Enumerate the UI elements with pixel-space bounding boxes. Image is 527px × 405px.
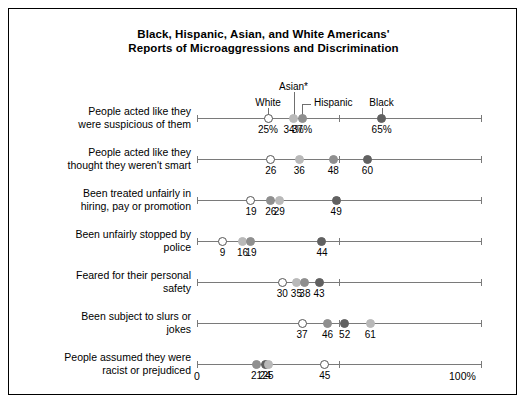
axis-tick-50 [339,361,340,368]
row-label-line-2: were suspicious of them [15,118,191,131]
row-label: People acted like theythought they weren… [15,146,191,172]
axis-end-label: 100% [449,370,476,382]
row-label-line-1: Feared for their personal [15,269,191,282]
legend-connector [302,104,311,105]
data-point-hispanic [266,196,275,205]
data-point-asian [289,114,298,123]
data-point-black [317,237,326,246]
row-label-line-2: jokes [15,323,191,336]
axis-tick-100 [481,361,482,368]
legend-connector [294,92,295,115]
axis-tick-0 [197,115,198,122]
axis-tick-0 [197,279,198,286]
chart-panel: Black, Hispanic, Asian, and White Americ… [8,8,517,395]
data-point-value-label: 49 [320,206,352,217]
data-point-asian [295,155,304,164]
axis-tick-50 [339,115,340,122]
row-label: Been subject to slurs orjokes [15,310,191,336]
data-point-hispanic [300,278,309,287]
data-point-hispanic [323,319,332,328]
row-label-line-1: People acted like they [15,105,191,118]
row-label-line-2: thought they weren't smart [15,159,191,172]
data-point-value-label: 37% [286,124,318,135]
data-point-black [363,155,372,164]
data-point-hispanic [329,155,338,164]
chart-title-line-2: Reports of Microaggressions and Discrimi… [9,41,517,55]
data-point-white [246,196,255,205]
data-point-value-label: 44 [306,247,338,258]
axis-tick-0 [197,197,198,204]
legend-label-black: Black [358,97,406,108]
data-point-white [320,360,329,369]
data-point-white [266,155,275,164]
axis-tick-0 [197,320,198,327]
data-point-black [332,196,341,205]
axis-tick-100 [481,279,482,286]
data-point-hispanic [298,114,307,123]
axis-tick-0 [197,156,198,163]
row-label-line-1: Been treated unfairly in [15,187,191,200]
legend-label-hispanic: Hispanic [314,97,352,108]
row-label-line-1: Been unfairly stopped by [15,228,191,241]
row-label: People assumed they wereracist or prejud… [15,351,191,377]
axis-tick-0 [197,361,198,368]
row-label-line-1: People assumed they were [15,351,191,364]
data-point-asian [275,196,284,205]
axis-tick-50 [339,238,340,245]
row-label: People acted like theywere suspicious of… [15,105,191,131]
row-label-line-2: safety [15,282,191,295]
data-point-value-label: 26 [255,165,287,176]
data-point-hispanic [252,360,261,369]
data-point-value-label: 65% [366,124,398,135]
data-point-value-label: 19 [235,247,267,258]
legend-label-asian: Asian* [270,81,318,92]
row-label-line-1: Been subject to slurs or [15,310,191,323]
data-point-hispanic [246,237,255,246]
data-point-black [340,319,349,328]
axis-start-label: 0 [194,370,200,382]
row-label: Feared for their personalsafety [15,269,191,295]
axis-tick-100 [481,156,482,163]
row-label-line-2: hiring, pay or promotion [15,200,191,213]
chart-title-line-1: Black, Hispanic, Asian, and White Americ… [9,27,517,41]
chart-title: Black, Hispanic, Asian, and White Americ… [9,27,517,55]
legend-label-white: White [244,97,292,108]
data-point-asian [366,319,375,328]
data-point-value-label: 25 [252,370,284,381]
row-label-line-1: People acted like they [15,146,191,159]
data-point-black [377,114,386,123]
data-point-value-label: 36 [283,165,315,176]
axis-tick-100 [481,238,482,245]
data-point-white [264,114,273,123]
data-point-value-label: 48 [317,165,349,176]
data-point-value-label: 43 [303,288,335,299]
axis-tick-50 [339,156,340,163]
axis-tick-100 [481,197,482,204]
data-point-asian [264,360,273,369]
data-point-value-label: 60 [351,165,383,176]
data-point-value-label: 61 [354,329,386,340]
axis-tick-0 [197,238,198,245]
axis-tick-100 [481,115,482,122]
data-point-white [278,278,287,287]
data-point-value-label: 45 [309,370,341,381]
row-label-line-2: racist or prejudiced [15,364,191,377]
data-point-value-label: 29 [263,206,295,217]
row-label-line-2: police [15,241,191,254]
axis-tick-50 [339,279,340,286]
axis-tick-100 [481,320,482,327]
data-point-black [315,278,324,287]
data-point-white [298,319,307,328]
data-point-white [218,237,227,246]
row-label: Been treated unfairly inhiring, pay or p… [15,187,191,213]
row-label: Been unfairly stopped bypolice [15,228,191,254]
